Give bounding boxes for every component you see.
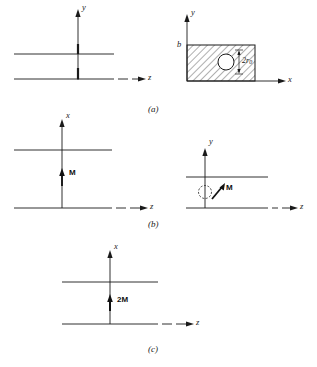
panel-c-x-axis-label: x — [114, 241, 118, 251]
panel-b-right-drawing — [160, 140, 317, 225]
z-axis-arrowhead — [138, 76, 146, 81]
z-axis-arrowhead — [140, 205, 148, 210]
panel-b-left-z-axis-label: z — [150, 201, 153, 211]
panel-b-left-magnetization-label: M — [69, 168, 76, 177]
panel-c-view: x z 2M — [80, 238, 317, 348]
figure-container: y z — [0, 0, 317, 367]
x-axis-arrowhead — [59, 119, 64, 127]
y-axis-arrowhead — [75, 9, 80, 17]
panel-a-left-y-axis-label: y — [82, 2, 86, 12]
panel-a-right-view: y x b 2r0 — [160, 0, 317, 100]
magnetization-arrow-shaft — [212, 187, 222, 199]
y-axis-arrowhead — [184, 14, 189, 22]
panel-b-right-magnetization-label: M — [226, 183, 233, 192]
panel-b-right-view: y z M — [160, 140, 317, 225]
panel-c-magnetization-label: 2M — [117, 295, 128, 304]
panel-b-caption: (b) — [148, 219, 159, 229]
panel-a-left-z-axis-label: z — [148, 72, 151, 82]
z-axis-arrowhead — [186, 321, 194, 326]
panel-a-right-y-axis-label: y — [191, 7, 195, 17]
panel-b-right-z-axis-label: z — [300, 201, 303, 211]
panel-c-drawing — [80, 238, 317, 348]
y-axis-arrowhead — [202, 148, 207, 156]
panel-b-left-view: x z M — [0, 112, 160, 222]
cross-section-height-label: b — [177, 39, 181, 49]
circular-hole — [218, 54, 234, 70]
panel-b-left-x-axis-label: x — [66, 110, 70, 120]
x-axis-arrowhead — [107, 250, 112, 258]
hole-diameter-label: 2r0 — [242, 56, 252, 65]
panel-a-left-view: y z — [0, 0, 160, 100]
panel-c-caption: (c) — [148, 344, 158, 354]
hole-diameter-label-subscript: 0 — [249, 59, 252, 65]
panel-b-left-drawing — [0, 112, 160, 222]
panel-a-right-x-axis-label: x — [288, 74, 292, 84]
magnetization-arrow-head — [107, 294, 113, 302]
x-axis-arrowhead — [278, 78, 286, 83]
magnetization-arrow-head — [59, 168, 65, 176]
panel-a-left-drawing — [0, 0, 160, 100]
z-axis-arrowhead — [290, 205, 298, 210]
panel-a-right-drawing — [160, 0, 317, 100]
panel-c-z-axis-label: z — [196, 317, 199, 327]
panel-b-right-y-axis-label: y — [209, 136, 213, 146]
